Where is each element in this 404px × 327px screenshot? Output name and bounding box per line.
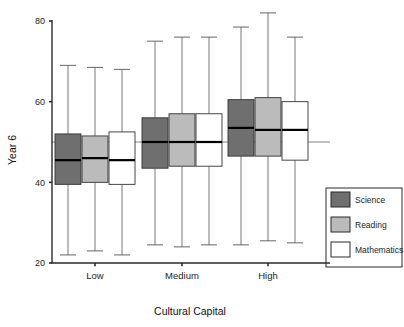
- chart-canvas: 20406080 LowMediumHigh ScienceReadingMat…: [0, 0, 404, 327]
- legend-swatch-reading: [331, 217, 350, 232]
- x-category-label-high: High: [258, 270, 278, 281]
- x-axis-title: Cultural Capital: [154, 305, 226, 317]
- legend-item-mathematics[interactable]: Mathematics: [331, 242, 403, 257]
- y-tick-label-40: 40: [35, 178, 45, 188]
- legend-label-reading: Reading: [355, 220, 387, 230]
- legend-swatch-mathematics: [331, 242, 350, 257]
- legend-label-mathematics: Mathematics: [355, 245, 403, 255]
- legend-item-reading[interactable]: Reading: [331, 217, 387, 232]
- legend-item-science[interactable]: Science: [331, 192, 386, 207]
- y-tick-label-80: 80: [35, 16, 45, 26]
- legend-label-science: Science: [355, 195, 386, 205]
- y-tick-label-60: 60: [35, 97, 45, 107]
- y-tick-label-20: 20: [35, 258, 45, 268]
- x-category-label-low: Low: [86, 270, 104, 281]
- y-axis-title: Year 6: [6, 135, 18, 165]
- legend-swatch-science: [331, 192, 350, 207]
- boxplot-chart: 20406080 LowMediumHigh ScienceReadingMat…: [0, 0, 404, 327]
- x-category-label-medium: Medium: [165, 270, 199, 281]
